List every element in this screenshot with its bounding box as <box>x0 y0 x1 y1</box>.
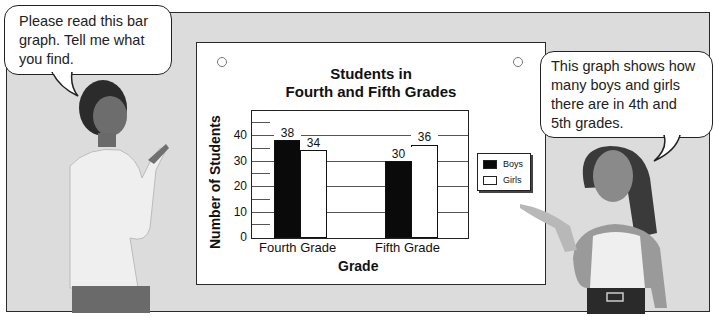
bar-fourth-grade-girls <box>300 150 327 238</box>
chart-poster: Students in Fourth and Fifth Grades Numb… <box>196 42 546 285</box>
data-label: 38 <box>274 126 301 140</box>
minor-tick <box>252 173 270 174</box>
speech-line: you find. <box>19 50 171 69</box>
student-illustration <box>515 138 685 316</box>
y-axis-label: Number of Students <box>207 115 223 249</box>
minor-tick <box>252 224 270 225</box>
chart-title: Students in Fourth and Fifth Grades <box>197 65 545 101</box>
speech-bubble-teacher: Please read this bar graph. Tell me what… <box>4 5 172 75</box>
y-tick-label: 30 <box>227 154 247 168</box>
chart-title-line: Fourth and Fifth Grades <box>197 83 545 101</box>
speech-line: many boys and girls <box>551 76 712 95</box>
speech-line: This graph shows how <box>551 57 712 76</box>
speech-line: there are in 4th and <box>551 95 712 114</box>
y-tick-label: 10 <box>227 205 247 219</box>
minor-tick <box>252 199 270 200</box>
speech-bubble-student: This graph shows how many boys and girls… <box>540 51 713 138</box>
x-axis-label: Grade <box>338 258 378 274</box>
speech-line: 5th grades. <box>551 114 712 133</box>
legend-swatch-girls <box>483 176 497 185</box>
y-tick-label: 0 <box>227 230 247 244</box>
y-tick-label: 20 <box>227 179 247 193</box>
bar-fifth-grade-boys <box>385 161 412 238</box>
minor-tick <box>252 122 270 123</box>
minor-tick <box>252 148 270 149</box>
bar-fourth-grade-boys <box>274 140 301 238</box>
teacher-illustration <box>60 78 180 313</box>
chart-title-line: Students in <box>197 65 545 83</box>
x-tick-label: Fourth Grade <box>259 240 336 255</box>
x-tick-label: Fifth Grade <box>375 240 440 255</box>
bar-fifth-grade-girls <box>411 145 438 238</box>
data-label: 36 <box>411 130 438 144</box>
speech-line: graph. Tell me what <box>19 31 171 50</box>
speech-line: Please read this bar <box>19 12 171 31</box>
y-tick-label: 40 <box>227 128 247 142</box>
data-label: 34 <box>300 136 327 150</box>
plot-area: 38 34 30 36 <box>251 110 469 239</box>
data-label: 30 <box>385 147 412 161</box>
legend-swatch-boys <box>483 160 497 169</box>
